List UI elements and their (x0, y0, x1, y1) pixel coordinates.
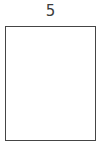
rectangle-dimension-label: 5 (0, 2, 101, 20)
rectangle-shape (5, 26, 96, 141)
figure-canvas: 5 (0, 0, 101, 149)
